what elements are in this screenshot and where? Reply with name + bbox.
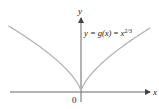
equation-function: g(x) bbox=[98, 28, 112, 38]
plot-area: y x 0 y = g(x) = x2/3 bbox=[0, 0, 159, 109]
equation-exponent: 2/3 bbox=[124, 28, 132, 34]
equation-label: y = g(x) = x2/3 bbox=[83, 28, 132, 39]
y-axis-label: y bbox=[77, 6, 82, 16]
equation-equals: = bbox=[111, 28, 120, 38]
curve-line bbox=[9, 26, 151, 91]
origin-label: 0 bbox=[72, 95, 77, 105]
x-axis-label: x bbox=[152, 87, 157, 97]
equation-prefix: y = bbox=[83, 28, 98, 38]
